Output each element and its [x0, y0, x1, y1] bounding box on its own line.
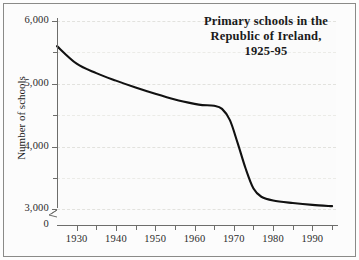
chart-figure: 3,0004,0005,0006,0000 193019401950196019… [0, 0, 359, 260]
x-tick-label-1930: 1930 [66, 233, 88, 244]
x-tick-1950 [155, 225, 156, 231]
x-tick-1940 [116, 225, 117, 231]
x-tick-minor-1965 [214, 225, 215, 230]
chart-title-line-1: Republic of Ireland, [183, 29, 349, 44]
x-tick-label-1980: 1980 [262, 233, 284, 244]
x-tick-1930 [77, 225, 78, 231]
x-tick-minor-1945 [136, 225, 137, 230]
x-tick-minor-1995 [332, 225, 333, 230]
x-tick-minor-1975 [253, 225, 254, 230]
y-tick-minor-5500 [53, 52, 57, 53]
x-tick-minor-1985 [293, 225, 294, 230]
x-tick-1980 [273, 225, 274, 231]
x-tick-1970 [234, 225, 235, 231]
x-tick-minor-1935 [96, 225, 97, 230]
chart-title-line-0: Primary schools in the [183, 14, 349, 29]
x-tick-1990 [312, 225, 313, 231]
x-tick-label-1990: 1990 [302, 233, 324, 244]
y-tick-minor-3500 [53, 178, 57, 179]
y-axis-title: Number of schools [15, 53, 27, 183]
y-tick-label-6000: 6,000 [24, 14, 49, 25]
x-axis-line [57, 225, 338, 226]
y-tick-label-5000: 5,000 [24, 77, 49, 88]
x-tick-label-1960: 1960 [184, 233, 206, 244]
x-tick-1960 [195, 225, 196, 231]
x-tick-label-1950: 1950 [144, 233, 166, 244]
y-tick-label-4000: 4,000 [24, 140, 49, 151]
chart-title-line-2: 1925-95 [183, 44, 349, 59]
axis-break-icon [46, 200, 68, 222]
y-tick-5000 [52, 84, 57, 85]
x-tick-label-1970: 1970 [223, 233, 245, 244]
y-tick-minor-4500 [53, 115, 57, 116]
chart-title: Primary schools in theRepublic of Irelan… [183, 14, 349, 59]
y-axis-line [57, 18, 58, 208]
x-tick-minor-1955 [175, 225, 176, 230]
y-tick-4000 [52, 147, 57, 148]
x-tick-label-1940: 1940 [105, 233, 127, 244]
y-tick-6000 [52, 21, 57, 22]
